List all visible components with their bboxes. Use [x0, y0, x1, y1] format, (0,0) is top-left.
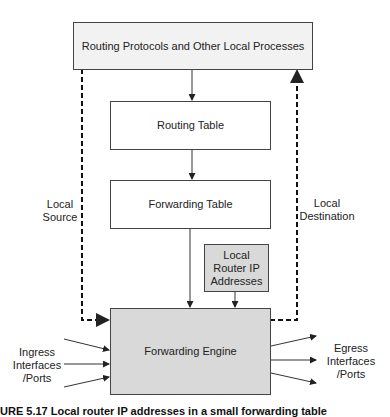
local-router-ip-box: Local Router IP Addresses — [204, 244, 269, 292]
figure-caption: URE 5.17 Local router IP addresses in a … — [0, 405, 390, 417]
egress-label: Egress Interfaces /Ports — [322, 342, 380, 381]
forwarding-table-label: Forwarding Table — [148, 198, 232, 211]
egress-arrow-3 — [271, 373, 316, 383]
forwarding-table-box: Forwarding Table — [110, 180, 271, 229]
forwarding-engine-box: Forwarding Engine — [110, 308, 271, 395]
local-destination-path — [270, 71, 297, 320]
ingress-arrow-1 — [64, 339, 109, 350]
routing-table-box: Routing Table — [110, 101, 271, 150]
routing-table-label: Routing Table — [157, 119, 224, 132]
ingress-arrow-3 — [64, 377, 109, 387]
local-destination-label: Local Destination — [299, 197, 355, 223]
routing-protocols-label: Routing Protocols and Other Local Proces… — [82, 40, 305, 53]
forwarding-engine-label: Forwarding Engine — [144, 345, 236, 358]
ingress-label: Ingress Interfaces /Ports — [10, 346, 64, 385]
routing-protocols-box: Routing Protocols and Other Local Proces… — [73, 22, 313, 70]
local-source-label: Local Source — [40, 198, 80, 224]
local-source-path — [82, 69, 108, 320]
egress-arrow-1 — [271, 336, 316, 346]
local-router-ip-label: Local Router IP Addresses — [208, 249, 265, 288]
